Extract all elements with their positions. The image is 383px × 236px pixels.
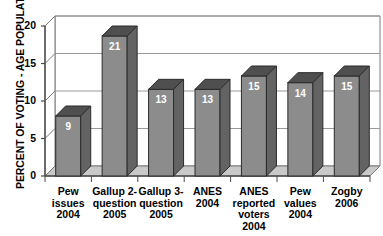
x-axis-category-label: ANES 2004 xyxy=(182,186,232,209)
bar-value-label: 21 xyxy=(102,41,127,52)
y-tick-label-10: 10 xyxy=(14,95,36,106)
bar-front-face xyxy=(102,36,127,176)
y-tick-label-20: 20 xyxy=(14,20,36,31)
bar-chart: PERCENT OF VOTING - AGE POPULATION xyxy=(0,0,383,236)
bar-side-face xyxy=(81,106,91,176)
y-tick-label-0: 0 xyxy=(14,170,36,181)
x-axis-category-label: Gallup 3- question 2005 xyxy=(136,186,186,221)
y-tick-label-5: 5 xyxy=(14,133,36,144)
bar-value-label: 15 xyxy=(334,81,359,92)
x-axis-category-label: Pew values 2004 xyxy=(275,186,325,221)
x-axis-category-label: ANES reported voters 2004 xyxy=(229,186,279,232)
bar-side-face xyxy=(313,73,323,176)
bar-side-face xyxy=(266,66,276,176)
bar-value-label: 14 xyxy=(288,88,313,99)
bar-side-face xyxy=(127,26,137,176)
bar-value-label: 13 xyxy=(149,94,174,105)
x-axis-category-label: Pew issues 2004 xyxy=(43,186,93,221)
x-axis-category-label: Zogby 2006 xyxy=(322,186,372,209)
bar-value-label: 9 xyxy=(56,121,81,132)
y-tick-label-15: 15 xyxy=(14,58,36,69)
x-axis-category-label: Gallup 2- question 2005 xyxy=(89,186,139,221)
bar-side-face xyxy=(220,79,230,176)
bar-side-face xyxy=(359,66,369,176)
bar-side-face xyxy=(174,79,184,176)
bar-value-label: 15 xyxy=(241,81,266,92)
bar-value-label: 13 xyxy=(195,94,220,105)
